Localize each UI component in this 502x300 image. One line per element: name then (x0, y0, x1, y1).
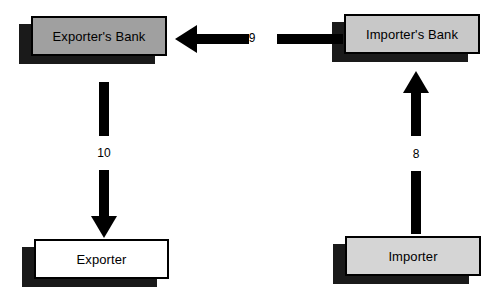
edge-8-arrowhead-icon (403, 71, 429, 93)
edge-8-segment-bottom (411, 171, 421, 234)
edge-10-arrowhead-icon (91, 216, 117, 238)
edge-10-segment-bottom (99, 170, 109, 218)
node-exporters-bank-label: Exporter's Bank (53, 29, 146, 44)
node-exporter[interactable]: Exporter (34, 239, 169, 279)
edge-8-segment-top (411, 92, 421, 136)
node-importer[interactable]: Importer (345, 236, 481, 276)
node-importers-bank-label: Importer's Bank (366, 27, 458, 42)
edge-9-label: 9 (243, 31, 261, 45)
edge-10-label: 10 (95, 146, 113, 160)
edge-9-segment-left (196, 34, 249, 44)
node-exporters-bank[interactable]: Exporter's Bank (31, 16, 167, 56)
node-importer-label: Importer (388, 249, 437, 264)
diagram-canvas: 9 10 8 Exporter's Bank Importer's Bank E… (0, 0, 502, 300)
edge-9-segment-right (277, 34, 343, 44)
edge-9-arrowhead-icon (175, 25, 197, 53)
edge-8-label: 8 (407, 147, 425, 161)
node-importers-bank[interactable]: Importer's Bank (344, 14, 480, 54)
node-exporter-label: Exporter (77, 252, 127, 267)
edge-10-segment-top (99, 82, 109, 136)
